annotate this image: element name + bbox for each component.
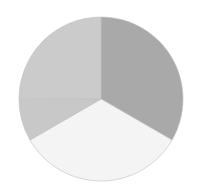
pie-slice-4: [19, 17, 101, 99]
pie-slices: [19, 17, 183, 181]
pie-chart: [0, 0, 203, 195]
